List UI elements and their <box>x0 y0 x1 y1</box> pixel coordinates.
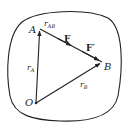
point-label-B: B <box>103 61 111 72</box>
vector-label-rB: rB <box>80 80 88 90</box>
point-label-A: A <box>28 24 36 35</box>
point-label-O: O <box>25 97 33 108</box>
origin-point <box>35 102 38 105</box>
vector-label-rA: rA <box>27 63 35 73</box>
vector-label-rAB: rAB <box>44 19 55 29</box>
force-label-Fprime: F′ <box>86 43 95 53</box>
force-label-F: F <box>64 34 71 44</box>
vector-rA-line <box>36 31 40 103</box>
vector-rB-line <box>36 64 100 104</box>
system-diagram: A B O rAB rA rB F F′ <box>0 0 127 127</box>
